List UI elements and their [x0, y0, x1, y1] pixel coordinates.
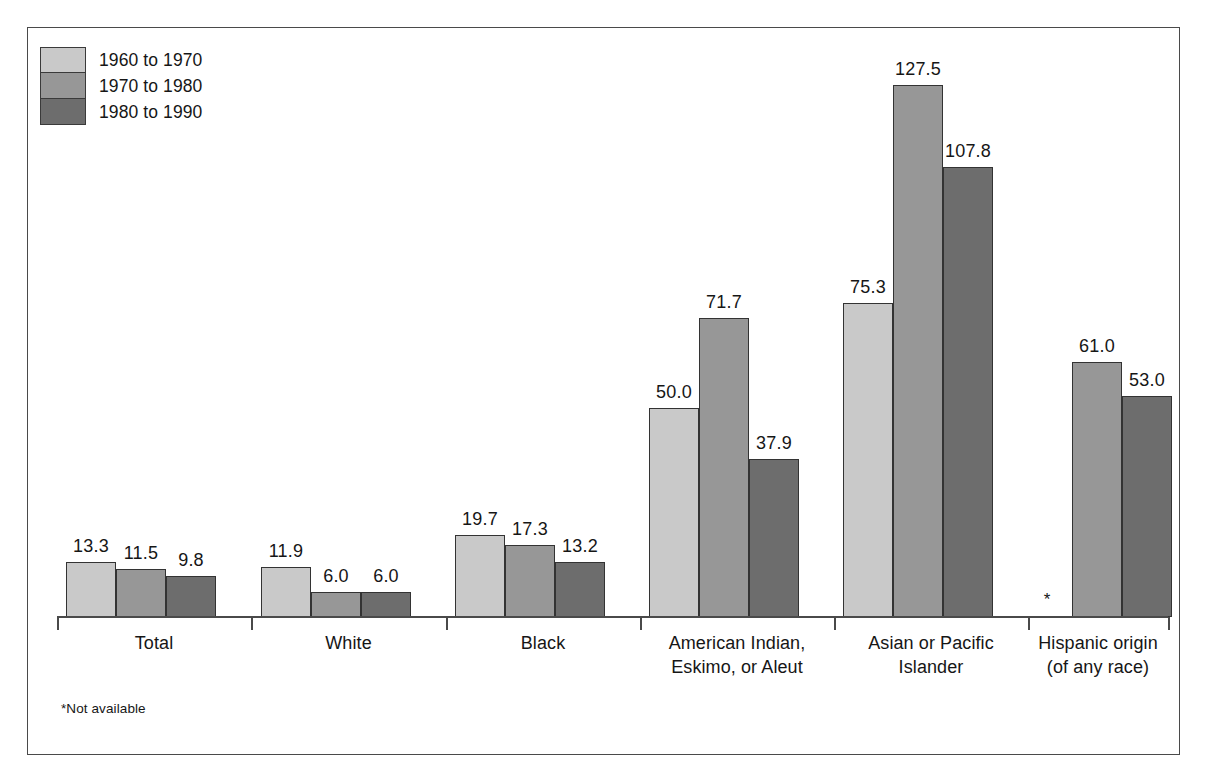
- category-label-line: American Indian,: [640, 632, 834, 656]
- bar-0-1: [116, 569, 166, 617]
- category-label-line: Black: [446, 632, 640, 656]
- x-axis-baseline: [57, 616, 1168, 618]
- bar-5-2: [1122, 396, 1172, 617]
- chart-figure: 1960 to 1970 1970 to 1980 1980 to 1990 1…: [0, 0, 1209, 772]
- bar-value-label: 53.0: [1114, 370, 1180, 391]
- bar-4-0: [843, 303, 893, 617]
- bar-3-1: [699, 318, 749, 617]
- bar-value-label: 13.2: [547, 536, 613, 557]
- bar-value-label: 11.9: [253, 541, 319, 562]
- axis-tick-2: [446, 617, 448, 630]
- bar-2-2: [555, 562, 605, 617]
- axis-tick-0: [57, 617, 59, 630]
- bar-3-2: [749, 459, 799, 617]
- plot-area: 13.311.59.811.96.06.019.717.313.250.071.…: [57, 50, 1167, 617]
- bar-0-2: [166, 576, 216, 617]
- bar-5-1: [1072, 362, 1122, 617]
- category-label-5: Hispanic origin(of any race): [1028, 632, 1168, 680]
- bar-value-label: 107.8: [935, 141, 1001, 162]
- bar-4-1: [893, 85, 943, 617]
- category-label-4: Asian or PacificIslander: [834, 632, 1028, 680]
- category-label-line: Asian or Pacific: [834, 632, 1028, 656]
- bar-0-0: [66, 562, 116, 617]
- category-label-0: Total: [57, 632, 251, 656]
- category-label-line: Hispanic origin: [1028, 632, 1168, 656]
- bar-value-label: 71.7: [691, 292, 757, 313]
- category-label-line: Islander: [834, 656, 1028, 680]
- bar-value-label: 75.3: [835, 277, 901, 298]
- bar-3-0: [649, 408, 699, 617]
- bar-4-2: [943, 167, 993, 617]
- bar-value-label: 50.0: [641, 382, 707, 403]
- axis-tick-6: [1168, 617, 1170, 630]
- bar-1-1: [311, 592, 361, 617]
- category-label-line: Total: [57, 632, 251, 656]
- footnote: *Not available: [61, 701, 146, 716]
- axis-tick-1: [251, 617, 253, 630]
- category-label-line: White: [251, 632, 446, 656]
- axis-tick-4: [834, 617, 836, 630]
- category-label-line: Eskimo, or Aleut: [640, 656, 834, 680]
- bar-1-2: [361, 592, 411, 617]
- category-label-3: American Indian,Eskimo, or Aleut: [640, 632, 834, 680]
- axis-tick-5: [1028, 617, 1030, 630]
- category-label-1: White: [251, 632, 446, 656]
- bar-value-label: 127.5: [885, 59, 951, 80]
- bar-value-label: 61.0: [1064, 336, 1130, 357]
- bar-2-0: [455, 535, 505, 617]
- axis-tick-3: [640, 617, 642, 630]
- bar-value-label: 6.0: [353, 566, 419, 587]
- category-label-line: (of any race): [1028, 656, 1168, 680]
- category-label-2: Black: [446, 632, 640, 656]
- bar-value-label: 37.9: [741, 433, 807, 454]
- bar-value-label: 9.8: [158, 550, 224, 571]
- not-available-marker: *: [1022, 591, 1072, 608]
